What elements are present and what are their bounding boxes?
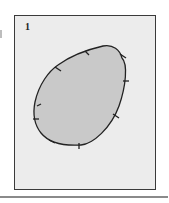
margin-mark	[0, 30, 2, 38]
bottom-rule	[0, 196, 168, 198]
figure-frame: 1	[14, 15, 156, 190]
teardrop-shape	[15, 16, 157, 191]
